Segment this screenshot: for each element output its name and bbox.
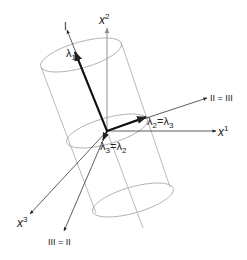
principal-axis-III-II-label: III = II [48,237,71,247]
lambda1-vector [75,52,107,131]
cylinder-top-ellipse [37,31,125,79]
x2-axis-label: x2 [98,12,110,27]
lambda2-eq-lambda3-label: λ2=λ3 [147,115,174,130]
lambda3-vector [103,131,107,140]
x1-axis-label: x1 [217,124,229,139]
principal-axis-I-label: I [64,21,67,32]
lambda3-eq-lambda2-label: λ3=λ2 [100,140,127,155]
x3-axis-label: x3 [16,215,28,230]
x3-axis [30,131,107,214]
principal-axes-diagram: x2 I λ1 II = III λ2=λ3 x1 λ3=λ2 x3 III =… [0,0,247,260]
cylinder-left-edge [41,67,96,213]
principal-axis-II-III-label: II = III [210,93,233,103]
lambda2-vector [107,117,146,131]
